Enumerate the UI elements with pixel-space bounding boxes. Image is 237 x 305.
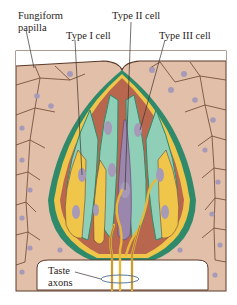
taste-bud-diagram: [0, 0, 237, 305]
label-taste-axons-2: axons: [48, 277, 73, 288]
label-type-iii-cell: Type III cell: [159, 30, 211, 41]
label-taste-axons-1: Taste: [48, 265, 70, 276]
label-fungiform-papilla-1: Fungiform: [18, 10, 63, 21]
label-type-i-cell: Type I cell: [66, 30, 111, 41]
label-type-ii-cell: Type II cell: [112, 10, 160, 21]
label-fungiform-papilla-2: papilla: [18, 22, 47, 33]
